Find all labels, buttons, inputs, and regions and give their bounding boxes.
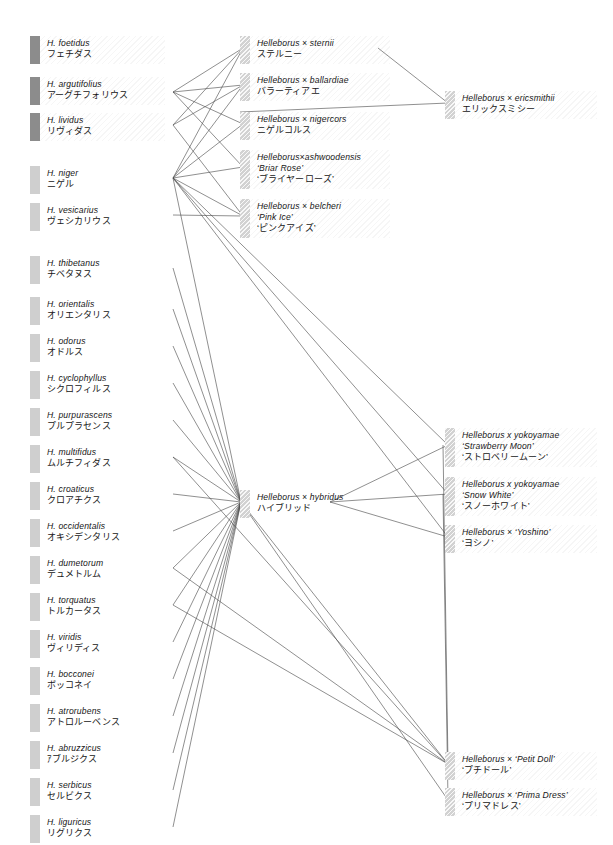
latin-name: H. argutifolius — [47, 79, 159, 90]
node-label-group: H. cyclophyllusシクロフィルス — [40, 371, 165, 399]
edge-multifidus-to-hybridus — [173, 457, 241, 502]
species-node-atrorubens[interactable]: H. atrorubensアトロルーベンス — [30, 704, 165, 732]
edge-viridis-to-hybridus — [173, 502, 241, 642]
kana-name: オキシデンタリス — [47, 532, 159, 544]
hybrid-node-belcheri[interactable]: Helleborus × belcheri‘Pink Ice’‘ピンクアイズ’ — [240, 199, 390, 238]
edge-argutifolius-to-nigercors — [173, 92, 243, 124]
node-label-group: Helleborus × ‘Prima Dress’‘プリマドレス’ — [455, 788, 597, 816]
latin-name: H. croaticus — [47, 484, 159, 495]
kana-name: ‘プチドール’ — [462, 765, 591, 777]
hybrid-node-hybridus[interactable]: Helleborus × hybridusハイブリッド — [240, 490, 368, 518]
latin-name: Helleborus x yokoyamae — [462, 430, 591, 441]
latin-name: Helleborus × ‘Prima Dress’ — [462, 790, 591, 801]
kana-name: ニゲル — [47, 179, 159, 191]
kana-name: アトロルーベンス — [47, 717, 159, 729]
node-label-group: H. serbicusセルビクス — [40, 778, 165, 806]
hybrid-node-yoshino[interactable]: Helleborus × ‘Yoshino’‘ヨシノ’ — [445, 525, 597, 553]
species-node-foetidus[interactable]: H. foetidusフェチダス — [30, 36, 165, 64]
latin-name: H. thibetanus — [47, 258, 159, 269]
species-node-lividus[interactable]: H. lividusリヴィダス — [30, 113, 165, 141]
color-swatch-icon — [30, 482, 40, 510]
color-swatch-icon — [30, 256, 40, 284]
species-node-serbicus[interactable]: H. serbicusセルビクス — [30, 778, 165, 806]
color-swatch-icon — [30, 77, 40, 105]
color-swatch-icon — [445, 428, 455, 467]
kana-name: ステルニー — [257, 49, 384, 61]
latin-name: Helleborus × ‘Petit Doll’ — [462, 754, 591, 765]
cultivar-name: ‘Strawberry Moon’ — [462, 441, 591, 452]
edge-thibetanus-to-hybridus — [173, 268, 241, 502]
node-label-group: H. viridisヴィリディス — [40, 630, 165, 658]
edge-torquatus-to-hybridus — [173, 502, 241, 605]
kana-name: シクロフィルス — [47, 384, 159, 396]
hybrid-node-nigercors[interactable]: Helleborus × nigercorsニゲルコルス — [240, 112, 390, 140]
species-node-argutifolius[interactable]: H. argutifoliusアーグチフォリウス — [30, 77, 165, 105]
edge-purpurascens-to-hybridus — [173, 420, 241, 502]
species-node-purpurascens[interactable]: H. purpurascensプルプラセンス — [30, 408, 165, 436]
node-label-group: Helleborus × ‘Petit Doll’‘プチドール’ — [455, 752, 597, 780]
edge-liguricus-to-hybridus — [173, 502, 241, 827]
cultivar-name: ‘Snow White’ — [462, 490, 591, 501]
edge-niger-to-sternii — [173, 48, 243, 178]
species-node-vesicarius[interactable]: H. vesicariusヴェシカリウス — [30, 203, 165, 231]
latin-name: H. purpurascens — [47, 410, 159, 421]
species-node-abruzzicus[interactable]: H. abruzzicusｱブルジクス — [30, 741, 165, 769]
species-node-occidentalis[interactable]: H. occidentalisオキシデンタリス — [30, 519, 165, 547]
species-node-niger[interactable]: H. nigerニゲル — [30, 166, 165, 194]
color-swatch-icon — [240, 490, 250, 518]
node-label-group: H. abruzzicusｱブルジクス — [40, 741, 165, 769]
edge-hybridus-to-petitdoll — [241, 502, 448, 764]
hybrid-node-ericsmithii[interactable]: Helleborus × ericsmithiiエリックスミシー — [445, 91, 597, 119]
edge-niger-to-ashwoodensis — [173, 167, 243, 178]
edge-croaticus-to-hybridus — [173, 494, 241, 502]
cultivar-name: ‘Pink Ice’ — [257, 212, 384, 223]
species-node-orientalis[interactable]: H. orientalisオリエンタリス — [30, 297, 165, 325]
latin-name: H. dumetorum — [47, 558, 159, 569]
hybrid-node-ballardiae[interactable]: Helleborus × ballardiaeバラーティアエ — [240, 73, 390, 101]
kana-name: バラーティアエ — [257, 86, 384, 98]
latin-name: H. multifidus — [47, 447, 159, 458]
node-label-group: H. multifidusムルチフィダス — [40, 445, 165, 473]
hybrid-node-primadress[interactable]: Helleborus × ‘Prima Dress’‘プリマドレス’ — [445, 788, 597, 816]
kana-name: リヴィダス — [47, 126, 159, 138]
hybrid-node-strawberry[interactable]: Helleborus x yokoyamae‘Strawberry Moon’‘… — [445, 428, 597, 467]
species-node-odorus[interactable]: H. odorusオドルス — [30, 334, 165, 362]
color-swatch-icon — [30, 630, 40, 658]
species-node-cyclophyllus[interactable]: H. cyclophyllusシクロフィルス — [30, 371, 165, 399]
node-label-group: Helleborus x yokoyamae‘Strawberry Moon’‘… — [455, 428, 597, 467]
color-swatch-icon — [30, 815, 40, 843]
edge-niger-to-belcheri — [173, 178, 243, 216]
color-swatch-icon — [30, 556, 40, 584]
edge-serbicus-to-hybridus — [173, 502, 241, 790]
node-label-group: Helleborus × ericsmithiiエリックスミシー — [455, 91, 597, 119]
color-swatch-icon — [30, 519, 40, 547]
edge-lividus-to-ballardiae — [173, 85, 243, 125]
hybrid-node-sternii[interactable]: Helleborus × sterniiステルニー — [240, 36, 390, 64]
kana-name: ｱブルジクス — [47, 754, 159, 766]
species-node-multifidus[interactable]: H. multifidusムルチフィダス — [30, 445, 165, 473]
latin-name: H. orientalis — [47, 299, 159, 310]
node-label-group: H. torquatusトルカータス — [40, 593, 165, 621]
edge-lividus-to-belcheri — [173, 125, 243, 216]
diagram-canvas: H. foetidusフェチダスH. argutifoliusアーグチフォリウス… — [0, 0, 613, 845]
color-swatch-icon — [240, 73, 250, 101]
species-node-liguricus[interactable]: H. liguricusリグリクス — [30, 815, 165, 843]
species-node-thibetanus[interactable]: H. thibetanusチベタヌス — [30, 256, 165, 284]
species-node-viridis[interactable]: H. viridisヴィリディス — [30, 630, 165, 658]
latin-name: Helleborus × belcheri — [257, 201, 384, 212]
species-node-torquatus[interactable]: H. torquatusトルカータス — [30, 593, 165, 621]
edge-atrorubens-to-hybridus — [173, 502, 241, 716]
kana-name: ‘ヨシノ’ — [462, 538, 591, 550]
hybrid-node-ashwoodensis[interactable]: Helleborus×ashwoodensis‘Briar Rose’‘ブライヤ… — [240, 150, 390, 189]
node-label-group: H. argutifoliusアーグチフォリウス — [40, 77, 165, 105]
edge-niger-to-ballardiae — [173, 85, 243, 178]
hybrid-node-petitdoll[interactable]: Helleborus × ‘Petit Doll’‘プチドール’ — [445, 752, 597, 780]
color-swatch-icon — [240, 199, 250, 238]
species-node-dumetorum[interactable]: H. dumetorumデュメトルム — [30, 556, 165, 584]
hybrid-node-snowwhite[interactable]: Helleborus x yokoyamae‘Snow White’‘スノーホワ… — [445, 477, 597, 516]
kana-name: ヴェシカリウス — [47, 216, 159, 228]
species-node-croaticus[interactable]: H. croaticusクロアチクス — [30, 482, 165, 510]
color-swatch-icon — [30, 667, 40, 695]
edge-argutifolius-to-ashwoodensis — [173, 92, 243, 167]
species-node-bocconei[interactable]: H. bocconeiボッコネイ — [30, 667, 165, 695]
